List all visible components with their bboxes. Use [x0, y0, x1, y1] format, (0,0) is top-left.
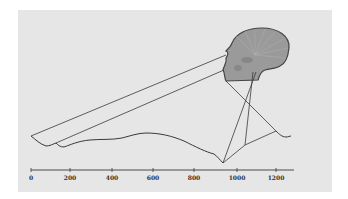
axis-tick-label: 1200	[268, 174, 285, 181]
axis-tick-label: 400	[106, 174, 119, 181]
axis-tick-label: 600	[147, 174, 160, 181]
profile-curve	[31, 131, 291, 163]
axis-tick-label: 1000	[229, 174, 246, 181]
skull-projection-diagram: 020040060080010001200	[0, 0, 348, 199]
axis-tick-label: 800	[188, 174, 201, 181]
axis-tick-label: 0	[29, 174, 33, 181]
axis-tick-label: 200	[64, 174, 77, 181]
x-axis: 020040060080010001200	[29, 168, 294, 181]
